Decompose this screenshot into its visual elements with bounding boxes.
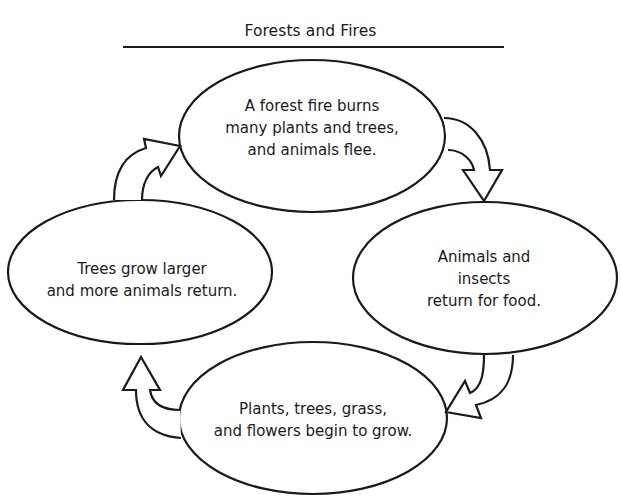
node-text-fire: A forest fire burns many plants and tree… (225, 95, 399, 161)
node-text-plants-grow: Plants, trees, grass, and flowers begin … (214, 398, 413, 442)
node-text-animals-return: Animals and insects return for food. (416, 246, 553, 312)
arrow-animals-to-plants (446, 355, 513, 418)
arrow-trees-to-fire (114, 139, 180, 200)
node-text-trees-grow: Trees grow larger and more animals retur… (47, 258, 238, 302)
arrow-plants-to-trees (123, 357, 181, 438)
arrow-fire-to-animals (444, 118, 502, 201)
